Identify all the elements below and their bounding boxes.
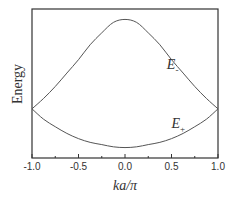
- x-tick-label: -0.5: [70, 161, 88, 172]
- band-energy-chart: -1.0-0.50.00.51.0 E-E+ ka/π Energy: [0, 0, 237, 199]
- curve-e-minus: [32, 19, 218, 108]
- x-axis-ticks: -1.0-0.50.00.51.0: [23, 154, 225, 172]
- x-tick-label: 1.0: [211, 161, 225, 172]
- curves: [32, 19, 218, 147]
- x-tick-label: 0.0: [118, 161, 132, 172]
- curve-label-e-plus: E+: [171, 116, 186, 134]
- curve-label-e-minus: E-: [166, 57, 179, 75]
- plot-frame: [32, 9, 218, 158]
- x-tick-label: 0.5: [165, 161, 179, 172]
- curve-labels: E-E+: [166, 57, 185, 135]
- curve-e-plus: [32, 109, 218, 148]
- y-axis-title: Energy: [10, 64, 25, 104]
- x-axis-title: ka/π: [113, 178, 138, 193]
- x-tick-label: -1.0: [23, 161, 41, 172]
